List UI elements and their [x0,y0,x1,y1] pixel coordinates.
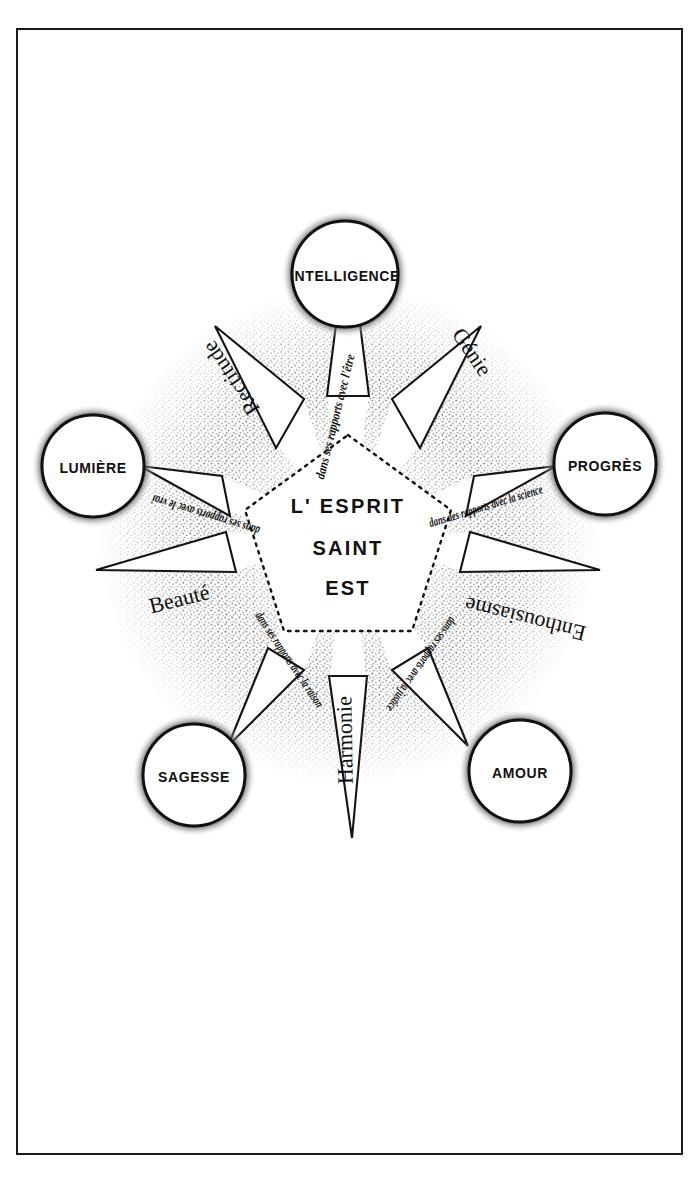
node-label-intelligence: INTELLIGENCE [290,268,400,284]
attribute-label-harmonie: Harmonie [331,696,358,784]
node-intelligence[interactable]: INTELLIGENCE [281,210,409,338]
node-lumiere[interactable]: LUMIÈRE [31,404,155,528]
node-label-progres: PROGRÈS [568,458,642,474]
node-label-sagesse: SAGESSE [158,769,230,785]
node-amour[interactable]: AMOUR [458,709,582,833]
node-label-lumiere: LUMIÈRE [59,460,126,476]
center-line-3: EST [325,577,371,599]
center-line-1: L' ESPRIT [291,495,406,517]
node-progres[interactable]: PROGRÈS [543,402,667,526]
node-label-amour: AMOUR [492,765,548,781]
node-sagesse[interactable]: SAGESSE [132,713,256,837]
esprit-saint-star-diagram: L' ESPRIT SAINT EST INTELLIGENCE PROGRÈS… [0,0,697,1198]
center-line-2: SAINT [313,537,384,559]
